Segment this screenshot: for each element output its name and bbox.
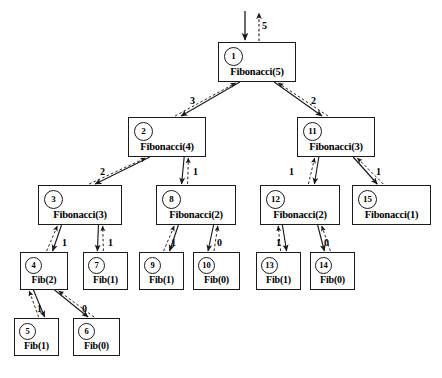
return-edge: [175, 83, 236, 116]
return-edge: [103, 226, 104, 251]
edge-label-n11-n12: 1: [289, 166, 294, 177]
node-label: Fib(1): [15, 340, 58, 351]
node-label: Fib(1): [140, 274, 183, 285]
fibonacci-recursion-tree-diagram: 5 1Fibonacci(5)2Fibonacci(4)11Fibonacci(…: [0, 0, 442, 378]
node-label: Fib(2): [21, 274, 67, 285]
tree-node-15: 15Fibonacci(1): [352, 185, 431, 225]
node-label: Fibonacci(1): [353, 209, 430, 220]
node-label: Fibonacci(3): [298, 141, 374, 152]
node-label: Fib(0): [74, 340, 119, 351]
edge-label-n12-n14: 0: [324, 237, 329, 248]
edge-label-n4-n6: 0: [82, 303, 87, 314]
node-order-badge: 2: [134, 122, 153, 141]
node-order-badge: 7: [88, 257, 105, 274]
tree-node-7: 7Fib(1): [83, 252, 128, 290]
tree-node-13: 13Fib(1): [256, 252, 301, 290]
node-order-badge: 11: [303, 122, 322, 141]
call-edge: [282, 225, 286, 251]
node-label: Fibonacci(3): [39, 209, 121, 220]
node-order-badge: 6: [78, 323, 95, 340]
root-edge-label: 5: [262, 20, 267, 31]
edge-label-n8-n9: 1: [171, 237, 176, 248]
return-edge: [278, 83, 328, 116]
edge-label-n2-n3: 2: [100, 166, 105, 177]
tree-node-8: 8Fibonacci(2): [156, 185, 236, 225]
node-order-badge: 9: [144, 257, 161, 274]
edge-label-n2-n8: 1: [193, 166, 198, 177]
node-order-badge: 15: [358, 190, 377, 209]
node-order-badge: 13: [261, 257, 278, 274]
tree-node-9: 9Fib(1): [139, 252, 184, 290]
edge-label-n8-n10: 0: [217, 237, 222, 248]
node-label: Fibonacci(2): [261, 209, 339, 220]
call-edge: [353, 157, 377, 184]
tree-node-6: 6Fib(0): [73, 318, 120, 356]
edge-label-n3-n4: 1: [62, 237, 67, 248]
call-edge: [208, 225, 214, 251]
edge-label-n11-n15: 1: [376, 166, 381, 177]
call-edge: [97, 225, 98, 251]
node-order-badge: 8: [162, 190, 181, 209]
return-edge: [59, 291, 94, 317]
tree-node-4: 4Fib(2): [20, 252, 68, 290]
tree-node-2: 2Fibonacci(4): [128, 117, 206, 157]
tree-node-14: 14Fib(0): [310, 252, 355, 290]
node-label: Fib(1): [84, 274, 127, 285]
return-edge: [47, 226, 58, 251]
node-order-badge: 1: [224, 47, 243, 66]
edge-label-n4-n5: 1: [37, 303, 42, 314]
edge-label-n1-n2: 3: [190, 95, 195, 106]
call-edge: [53, 225, 62, 251]
tree-node-10: 10Fib(0): [193, 252, 240, 290]
return-edge: [188, 158, 189, 184]
node-order-badge: 14: [315, 257, 332, 274]
edge-label-n3-n7: 1: [108, 237, 113, 248]
node-label: Fib(0): [194, 274, 239, 285]
tree-node-11: 11Fibonacci(3): [297, 117, 375, 157]
node-order-badge: 3: [44, 190, 63, 209]
node-order-badge: 10: [198, 257, 215, 274]
node-label: Fib(0): [311, 274, 354, 285]
tree-node-1: 1Fibonacci(5): [218, 42, 296, 82]
tree-node-12: 12Fibonacci(2): [260, 185, 340, 225]
tree-node-3: 3Fibonacci(3): [38, 185, 122, 225]
tree-node-5: 5Fib(1): [14, 318, 59, 356]
return-edge: [89, 158, 146, 184]
edge-label-n1-n11: 2: [311, 95, 316, 106]
edge-label-n12-n13: 1: [276, 237, 281, 248]
call-edge: [182, 157, 185, 184]
node-label: Fibonacci(5): [219, 66, 295, 77]
node-label: Fibonacci(4): [129, 141, 205, 152]
call-edge: [314, 157, 318, 184]
node-label: Fibonacci(2): [157, 209, 235, 220]
root-entry-arrows: [236, 10, 284, 46]
node-order-badge: 12: [266, 190, 285, 209]
return-edge: [308, 158, 314, 184]
node-order-badge: 4: [25, 257, 42, 274]
node-label: Fib(1): [257, 274, 300, 285]
node-order-badge: 5: [19, 323, 36, 340]
